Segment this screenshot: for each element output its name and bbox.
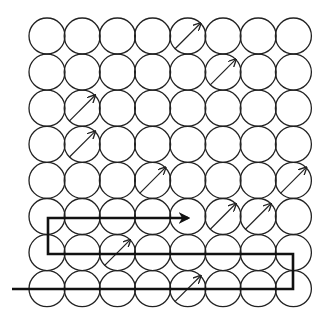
grid-circle xyxy=(99,18,135,54)
grid-circle xyxy=(64,199,100,235)
diagonal-arrow-icon xyxy=(69,95,95,121)
diagonal-arrow-icon xyxy=(140,167,166,193)
grid-circle xyxy=(29,126,65,162)
grid-circle xyxy=(240,126,276,162)
grid-circle xyxy=(170,54,206,90)
grid-circle xyxy=(275,90,311,126)
grid-circle xyxy=(205,162,241,198)
grid-circle xyxy=(205,126,241,162)
grid-circle xyxy=(29,90,65,126)
diagonal-arrow-icon xyxy=(210,204,236,230)
grid-circle xyxy=(205,235,241,271)
grid-circle xyxy=(135,90,171,126)
grid-circle xyxy=(240,90,276,126)
grid-circle xyxy=(240,162,276,198)
grid-circle xyxy=(240,235,276,271)
grid-circle xyxy=(64,235,100,271)
grid-circle xyxy=(240,54,276,90)
diagonal-arrow-icon xyxy=(175,23,201,49)
grid-circle xyxy=(64,54,100,90)
grid-circle xyxy=(170,162,206,198)
diagonal-arrow-icon xyxy=(280,167,306,193)
grid-circle xyxy=(135,54,171,90)
grid-circle xyxy=(64,18,100,54)
grid-circle xyxy=(29,162,65,198)
grid-circle xyxy=(99,162,135,198)
grid-circle xyxy=(99,54,135,90)
grid-circle xyxy=(135,126,171,162)
grid-circle xyxy=(99,199,135,235)
grid-circle xyxy=(205,18,241,54)
grid-circle xyxy=(275,18,311,54)
diagonal-arrow-icon xyxy=(210,59,236,85)
grid-circle xyxy=(170,90,206,126)
grid-circle xyxy=(135,18,171,54)
grid-circle xyxy=(64,162,100,198)
grid-circle xyxy=(275,199,311,235)
grid-circle xyxy=(205,90,241,126)
diagonal-arrow-icon xyxy=(104,240,130,266)
grid-circle xyxy=(29,18,65,54)
circle-grid-diagram xyxy=(0,0,328,325)
grid-circle xyxy=(135,199,171,235)
grid-circle xyxy=(170,126,206,162)
grid-circle xyxy=(99,90,135,126)
grid-circle xyxy=(240,18,276,54)
grid-circle xyxy=(275,126,311,162)
diagonal-arrow-icon xyxy=(245,204,271,230)
serpentine-path-arrow xyxy=(12,218,293,289)
grid-circle xyxy=(99,126,135,162)
circle-grid xyxy=(29,18,311,307)
grid-circle xyxy=(170,235,206,271)
diagonal-arrow-icon xyxy=(69,131,95,157)
grid-circle xyxy=(170,199,206,235)
grid-circle xyxy=(275,54,311,90)
grid-circle xyxy=(135,235,171,271)
grid-circle xyxy=(29,54,65,90)
